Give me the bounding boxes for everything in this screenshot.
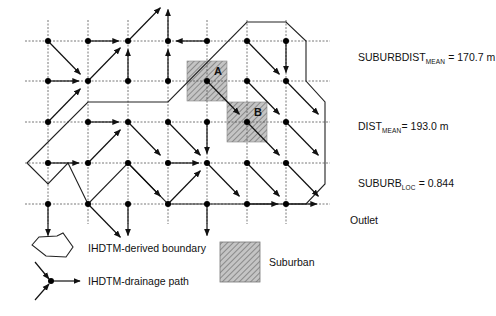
grid-node (283, 119, 289, 125)
drainage-arrow (286, 81, 318, 114)
grid-node (283, 160, 289, 166)
grid-node (125, 160, 131, 166)
drainage-arrow (207, 163, 239, 196)
drainage-diagram: AB (0, 0, 496, 316)
grid-node (244, 119, 250, 125)
drainage-arrow (286, 122, 318, 155)
grid-node (85, 78, 91, 84)
stat-subscript: MEAN (426, 58, 446, 65)
stat-name: SUBURB (358, 177, 402, 189)
grid-node (45, 201, 51, 207)
legend-node (48, 278, 54, 284)
legend-boundary-symbol (32, 233, 73, 257)
legend-suburban-symbol (220, 242, 260, 282)
drainage-arrow (88, 130, 120, 163)
grid-node (204, 119, 210, 125)
legend-arrow-in-2 (35, 284, 49, 300)
stat-suburb-loc: SUBURBLOC = 0.844 (358, 177, 454, 191)
stat-subscript: LOC (402, 184, 416, 191)
legend-drainage-label: IHDTM-drainage path (88, 275, 189, 287)
outlet-label: Outlet (350, 214, 378, 226)
watershed-boundary (27, 22, 325, 204)
grid-node (125, 119, 131, 125)
grid-node (45, 78, 51, 84)
grid-node (125, 78, 131, 84)
grid-node (125, 38, 131, 44)
grid-node (283, 78, 289, 84)
drainage-arrow (168, 122, 200, 155)
grid-node (283, 201, 289, 207)
grid-node (165, 119, 171, 125)
grid-node (165, 38, 171, 44)
suburban-cell-label: A (214, 65, 222, 77)
grid-node (204, 78, 210, 84)
stat-value: = 193.0 m (402, 120, 449, 132)
legend-drainage-symbol (35, 262, 80, 300)
grid-node (204, 38, 210, 44)
stat-value: = 0.844 (419, 177, 454, 189)
stat-subscript: MEAN (382, 127, 402, 134)
grid-node (45, 160, 51, 166)
stat-name: SUBURBDIST (358, 51, 426, 63)
grid-node (45, 119, 51, 125)
drainage-arrow (48, 41, 80, 74)
grid-node (244, 160, 250, 166)
grid-node (85, 38, 91, 44)
stat-suburbdist-mean: SUBURBDISTMEAN = 170.7 m (358, 51, 495, 65)
drainage-arrow (286, 163, 318, 196)
drainage-arrow (247, 163, 279, 196)
grid-node (85, 201, 91, 207)
grid-node (283, 38, 289, 44)
drainage-arrow (128, 122, 160, 155)
grid-node (244, 38, 250, 44)
legend-boundary-label: IHDTM-derived boundary (88, 242, 206, 254)
grid-node (85, 160, 91, 166)
grid-node (125, 201, 131, 207)
grid-node (204, 160, 210, 166)
grid-node (165, 160, 171, 166)
drainage-arrow (88, 204, 120, 237)
grid-node (244, 78, 250, 84)
stat-dist-mean: DISTMEAN= 193.0 m (358, 120, 449, 134)
suburban-cell-label: B (254, 106, 262, 118)
grid-node (244, 201, 250, 207)
legend-suburban-label: Suburban (269, 256, 315, 268)
grid-node (85, 119, 91, 125)
grid-node (165, 201, 171, 207)
drainage-arrow (128, 8, 160, 41)
stat-value: = 170.7 m (448, 51, 495, 63)
drainage-arrow (247, 41, 279, 74)
drainage-arrow (88, 48, 120, 81)
legend-arrow-in-1 (35, 262, 49, 279)
drainage-arrow (48, 89, 80, 122)
drainage-arrow (128, 163, 160, 196)
grid-node (165, 78, 171, 84)
grid-node (204, 201, 210, 207)
ihdtm-boundary (27, 22, 325, 204)
grid-node (45, 38, 51, 44)
drainage-arrow (168, 171, 200, 204)
stat-name: DIST (358, 120, 382, 132)
